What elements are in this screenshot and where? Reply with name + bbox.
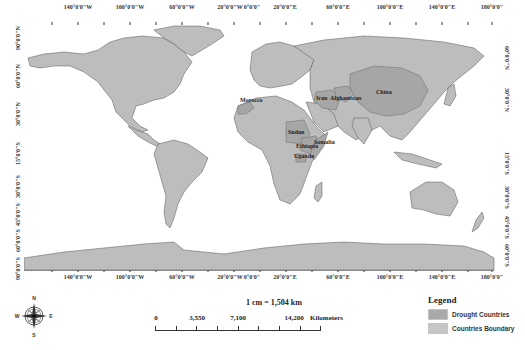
label-somalia: Somalia	[314, 139, 335, 145]
india	[352, 118, 372, 144]
north-america	[28, 36, 192, 132]
lat-label: 30°0'0"S	[504, 186, 510, 209]
world-map: Morocco Iran Afghanistan China Sudan Eth…	[24, 22, 498, 272]
lon-label: 140°0'0"W	[64, 4, 92, 10]
legend: Legend Drought Countries Countries Bound…	[428, 295, 523, 337]
land-masses	[24, 26, 494, 270]
lon-label: 100°0'0"E	[377, 274, 403, 280]
scale-tick-label: 0	[154, 314, 158, 322]
label-china: China	[376, 89, 392, 95]
scale-tick	[155, 326, 156, 331]
lon-label: 20°0'0"W	[217, 274, 242, 280]
lon-label: 180°0'0"	[481, 274, 503, 280]
legend-label: Drought Countries	[452, 311, 509, 318]
lon-label: 20°0'0"E	[273, 274, 296, 280]
legend-title: Legend	[428, 295, 523, 305]
lon-label: 60°0'0"E	[326, 274, 349, 280]
lat-label: 15°0'0"S	[15, 142, 21, 165]
australia	[410, 182, 458, 216]
lon-label: 100°0'0"E	[377, 4, 403, 10]
scale-tick	[258, 326, 259, 331]
north-arrow-compass-icon: N S W E	[14, 294, 54, 338]
lat-label: 30°0'0"N	[15, 102, 21, 126]
compass-n: N	[32, 295, 36, 301]
label-morocco: Morocco	[240, 97, 263, 103]
lat-label: 90°0'0"N	[15, 26, 21, 50]
lon-label: 100°0'0"W	[116, 274, 144, 280]
scale-unit: Kilometers	[310, 314, 343, 322]
lat-label: 30°0'0"N	[504, 88, 510, 112]
scale-tick-label: 7,100	[230, 314, 246, 322]
lat-label: 45°0'0"S	[15, 203, 21, 226]
scale-tick	[300, 326, 301, 331]
legend-item-boundary: Countries Boundary	[428, 323, 523, 334]
antarctica	[24, 242, 494, 270]
scale-tick	[320, 326, 321, 331]
legend-label: Countries Boundary	[452, 325, 514, 332]
lat-label: 15°0'0"S	[504, 152, 510, 175]
label-sudan: Sudan	[288, 129, 305, 135]
scale-ratio: 1 cm = 1,504 km	[246, 298, 302, 307]
lon-label: 20°0'0"W	[217, 4, 242, 10]
lat-label: 60°0'0"S	[15, 229, 21, 252]
compass-w: W	[15, 313, 20, 319]
indonesia	[394, 152, 442, 168]
scale-tick	[176, 326, 177, 331]
lon-label: 100°0'0"W	[116, 4, 144, 10]
lon-label: 140°0'0"E	[429, 274, 455, 280]
lon-label: 0°0'0"	[244, 4, 260, 10]
compass-s: S	[32, 332, 36, 338]
scale-tick	[238, 326, 239, 331]
scale-tick	[196, 326, 197, 331]
lat-label: 60°0'0"N	[15, 64, 21, 88]
legend-swatch-boundary	[428, 323, 448, 334]
top-ticks	[52, 22, 492, 25]
lon-label: 60°0'0"W	[169, 274, 194, 280]
compass-e: E	[49, 313, 53, 319]
label-iran: Iran	[316, 95, 328, 101]
lat-label: 60°0'0"N	[504, 46, 510, 70]
lat-label: 90°0'0"S	[15, 257, 21, 280]
lon-label: 60°0'0"W	[169, 4, 194, 10]
lon-label: 20°0'0"E	[273, 4, 296, 10]
label-uganda: Uganda	[294, 153, 314, 159]
madagascar	[314, 182, 322, 202]
south-america	[154, 140, 208, 228]
legend-swatch-drought	[428, 309, 448, 320]
scale-tick-label: 3,550	[189, 314, 205, 322]
lon-label: 140°0'0"W	[64, 274, 92, 280]
scale-tick-label: 14,200	[284, 314, 303, 322]
lat-label: 45°0'0"S	[504, 216, 510, 239]
new-zealand	[472, 212, 484, 232]
lon-label: 0°0'0"	[244, 274, 260, 280]
lon-label: 140°0'0"E	[429, 4, 455, 10]
scale-tick	[217, 326, 218, 331]
legend-item-drought: Drought Countries	[428, 309, 523, 320]
lon-label: 60°0'0"E	[326, 4, 349, 10]
scale-tick	[279, 326, 280, 331]
label-afghanistan: Afghanistan	[330, 95, 362, 101]
lat-label: 30°0'0"S	[15, 175, 21, 198]
lat-label: 60°0'0"S	[504, 244, 510, 267]
lon-label: 180°0'0"	[481, 4, 503, 10]
